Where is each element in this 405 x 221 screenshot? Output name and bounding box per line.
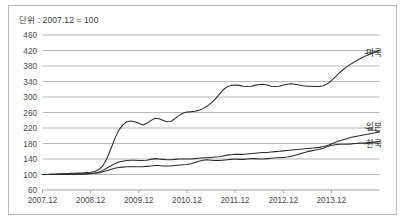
y-axis-tick-label: 260 bbox=[23, 109, 37, 118]
x-axis-ticks bbox=[43, 190, 332, 193]
x-axis-tick-label: 2009.12 bbox=[124, 196, 154, 205]
y-axis-tick-label: 340 bbox=[23, 78, 37, 87]
series-label-한국: 한국 bbox=[366, 139, 382, 149]
series-line-일본 bbox=[43, 132, 380, 175]
y-axis-tick-label: 60 bbox=[28, 186, 38, 195]
series-label-일본: 일본 bbox=[366, 122, 382, 132]
line-chart-plot: 60100140180220260300340380420460 2007.12… bbox=[0, 0, 405, 221]
y-axis-tick-label: 420 bbox=[23, 47, 37, 56]
x-axis-tick-label: 2008.12 bbox=[76, 196, 106, 205]
x-axis-tick-label: 2011.12 bbox=[221, 196, 250, 205]
y-axis-tick-label: 460 bbox=[23, 31, 37, 40]
y-axis-tick-label: 380 bbox=[23, 62, 37, 71]
x-axis-tick-labels: 2007.122008.122009.122010.122011.122012.… bbox=[28, 196, 347, 205]
gridlines bbox=[43, 35, 380, 190]
y-axis-tick-labels: 60100140180220260300340380420460 bbox=[23, 31, 37, 195]
y-axis-tick-label: 220 bbox=[23, 124, 37, 133]
series-labels: 미국일본한국 bbox=[365, 48, 383, 148]
y-axis-tick-label: 100 bbox=[23, 171, 37, 180]
x-axis-tick-label: 2010.12 bbox=[172, 196, 202, 205]
x-axis-tick-label: 2007.12 bbox=[28, 196, 58, 205]
x-axis-tick-label: 2013.12 bbox=[317, 196, 347, 205]
x-axis-tick-label: 2012.12 bbox=[268, 196, 298, 205]
series-label-미국: 미국 bbox=[366, 48, 382, 58]
y-axis-tick-label: 300 bbox=[23, 93, 37, 102]
y-axis-tick-label: 180 bbox=[23, 140, 37, 149]
series-line-한국 bbox=[43, 142, 380, 175]
y-axis-tick-label: 140 bbox=[23, 155, 37, 164]
chart-figure: 단위 : 2007.12 = 100 601001401802202603003… bbox=[0, 0, 405, 221]
